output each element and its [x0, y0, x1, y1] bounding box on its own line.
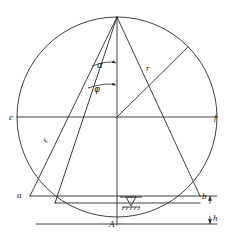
label-alpha: α: [97, 60, 103, 70]
label-e: e: [9, 112, 13, 122]
label-A-point: A: [108, 219, 115, 229]
angle-arc-alpha: [92, 62, 116, 66]
label-r-left: r: [40, 136, 51, 144]
label-r-right: r: [146, 63, 150, 73]
geometry-diagram: e f a b A h r r α φ: [0, 0, 227, 235]
chord-apex-to-a: [30, 17, 117, 196]
label-b: b: [202, 191, 207, 201]
label-a: a: [17, 190, 22, 200]
label-phi: φ: [94, 84, 100, 94]
radius-upper-right: [117, 47, 188, 117]
chord-apex-inner: [55, 17, 117, 203]
angle-arc-phi: [88, 84, 116, 88]
chord-apex-to-b: [117, 17, 200, 196]
label-h: h: [213, 213, 218, 223]
water-level-triangle-icon: [120, 197, 142, 210]
diagram-canvas: e f a b A h r r α φ: [0, 0, 227, 235]
